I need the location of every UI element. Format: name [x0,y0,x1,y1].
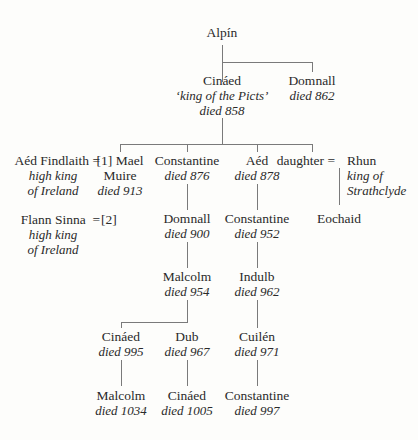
person-flann-sinna: Flann Sinna = [21,212,100,227]
line-malcolm1-children [121,322,188,323]
person-title: of Ireland [27,242,78,257]
line-constantine1-down [187,184,188,210]
line-cinaed2-down [121,360,122,386]
person-died: died 858 [176,103,269,118]
marriage-2-label: [2] [101,212,117,227]
person-name: Malcolm [95,388,147,403]
line-alpin-sons [222,62,312,63]
person-cinaed-1005: Cináed died 1005 [161,388,213,418]
person-name: Indulb [234,269,279,284]
person-died: died 913 [97,183,144,198]
person-name: Aéd [234,153,279,168]
person-cuilen-971: Cuilén died 971 [234,329,279,359]
marriage-label: [2] [101,212,117,227]
person-mael-muire: [1] Mael Muire died 913 [97,153,144,198]
line-aed-down [257,184,258,210]
person-died: died 1034 [95,403,147,418]
person-name: Cináed [161,388,213,403]
person-flann-sinna-title: high king of Ireland [27,227,78,257]
person-died: died 995 [98,344,143,359]
person-domnall-900: Domnall died 900 [163,211,210,241]
person-indulb-962: Indulb died 962 [234,269,279,299]
line-constantine2-down [257,242,258,268]
person-title: high king [27,168,78,183]
person-died: died 971 [234,344,279,359]
person-constantine-952: Constantine died 952 [225,211,290,241]
person-name: Eochaid [317,211,361,226]
person-title: ‘king of the Picts’ [176,88,269,103]
person-died: died 954 [163,284,212,299]
line-to-aed [257,144,258,152]
person-name: Constantine [225,211,290,226]
line-to-domnall1 [312,62,313,72]
person-died: died 952 [225,226,290,241]
person-died: died 862 [288,88,335,103]
line-to-constantine1 [187,144,188,152]
person-name: Aéd Findlaith = [14,153,100,168]
person-dub-967: Dub died 967 [164,329,209,359]
person-died: died 962 [234,284,279,299]
person-died: died 900 [163,226,210,241]
person-name: daughter = [277,153,335,168]
line-domnall2-down [187,242,188,268]
person-aed-findlaith-title: high king of Ireland [27,168,78,198]
line-to-mael-muire [120,144,121,152]
line-cinaed-children [120,144,313,145]
person-name: Domnall [163,211,210,226]
person-constantine-876: Constantine died 876 [155,153,220,183]
person-died: died 876 [155,168,220,183]
person-name: Flann Sinna = [21,212,100,227]
person-title: of Ireland [27,183,78,198]
person-name: [1] Mael [97,153,144,168]
person-died: died 997 [225,403,290,418]
person-malcolm-1034: Malcolm died 1034 [95,388,147,418]
person-title: Strathclyde [347,183,406,198]
person-title: king of [347,168,406,183]
person-name: Dub [164,329,209,344]
person-died: died 878 [234,168,279,183]
person-name: Domnall [288,73,335,88]
person-name: Rhun [347,153,406,168]
line-malcolm1-down [187,300,188,322]
line-to-cinaed2 [121,322,122,328]
person-aed-878: Aéd died 878 [234,153,279,183]
line-indulb-down [257,300,258,328]
person-eochaid: Eochaid [317,211,361,226]
person-died: died 1005 [161,403,213,418]
line-cinaed-down [222,118,223,144]
line-cuilen-down [257,360,258,386]
person-domnall-862: Domnall died 862 [288,73,335,103]
person-daughter: daughter = [277,153,335,168]
person-title: high king [27,227,78,242]
person-name: Constantine [225,388,290,403]
person-aed-findlaith: Aéd Findlaith = [14,153,100,168]
line-to-daughter [312,144,313,152]
person-name-2: Muire [97,168,144,183]
person-name: Cuilén [234,329,279,344]
line-dub-down [187,360,188,386]
person-name: Alpín [207,25,238,40]
person-died: died 967 [164,344,209,359]
person-name: Constantine [155,153,220,168]
line-daughter-rhun-child [339,168,340,205]
person-cinaed-995: Cináed died 995 [98,329,143,359]
person-constantine-997: Constantine died 997 [225,388,290,418]
person-name: Cináed [98,329,143,344]
person-rhun: Rhun king of Strathclyde [347,153,406,198]
person-malcolm-954: Malcolm died 954 [163,269,212,299]
person-name: Cináed [176,73,269,88]
person-alpin: Alpín [207,25,238,40]
person-name: Malcolm [163,269,212,284]
person-cinaed-858: Cináed ‘king of the Picts’ died 858 [176,73,269,118]
